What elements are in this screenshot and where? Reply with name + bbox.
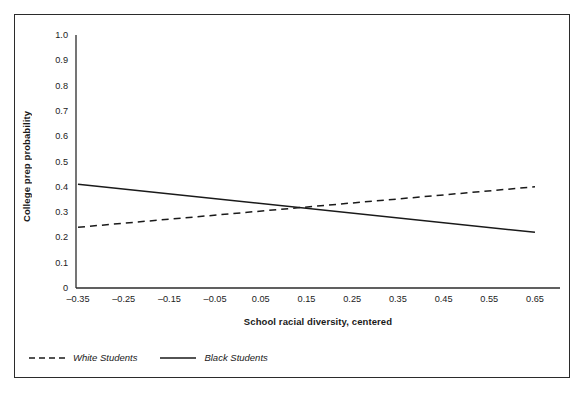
legend-item-white-students[interactable]: White Students [28,352,137,363]
figure: College prep probability 00.10.20.30.40.… [0,0,588,394]
series-line-black-students [78,184,535,232]
series-line-white-students [78,187,535,227]
legend-label: White Students [73,352,137,363]
legend-swatch-solid-line-icon [159,353,197,363]
legend: White StudentsBlack Students [28,352,268,363]
legend-swatch-dashed-line-icon [28,353,66,363]
plot-area [0,0,588,394]
legend-label: Black Students [204,352,267,363]
legend-item-black-students[interactable]: Black Students [159,352,267,363]
series-lines [78,184,535,232]
